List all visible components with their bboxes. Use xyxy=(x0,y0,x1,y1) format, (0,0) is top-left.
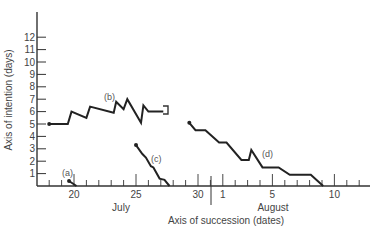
series-start-dot xyxy=(67,179,71,183)
y-tick-label: 6 xyxy=(29,106,35,117)
y-axis-title: Axis of intention (days) xyxy=(3,49,14,150)
series-lines xyxy=(47,99,323,186)
x-tick-label: 20 xyxy=(68,189,80,200)
y-tick-label: 4 xyxy=(29,131,35,142)
series-start-dot xyxy=(187,121,191,125)
series-start-dot xyxy=(134,143,138,147)
series-label-b: (b) xyxy=(104,92,115,102)
y-tick-label: 1 xyxy=(29,168,35,179)
x-tick-label: 5 xyxy=(270,189,276,200)
series-label-c: (c) xyxy=(151,154,162,164)
x-tick-label: 30 xyxy=(192,189,204,200)
y-tick-label: 12 xyxy=(24,32,36,43)
series-label-a: (a) xyxy=(62,168,73,178)
series-line-c xyxy=(136,145,170,186)
x-ticks: 2025301510 xyxy=(49,174,359,200)
series-label-d: (d) xyxy=(262,149,273,159)
chart-canvas: 123456789101112 2025301510 Axis of inten… xyxy=(0,0,375,231)
series-start-dot xyxy=(47,122,51,126)
y-tick-label: 8 xyxy=(29,81,35,92)
x-axis-title: Axis of succession (dates) xyxy=(168,215,284,226)
x-tick-label: 10 xyxy=(329,189,341,200)
y-tick-label: 2 xyxy=(29,156,35,167)
y-ticks: 123456789101112 xyxy=(24,32,46,179)
month-label-july: July xyxy=(112,202,130,213)
series-b-end-bracket xyxy=(163,106,168,114)
series-line-b xyxy=(49,99,163,124)
y-tick-label: 7 xyxy=(29,94,35,105)
y-tick-label: 9 xyxy=(29,69,35,80)
y-tick-label: 3 xyxy=(29,143,35,154)
month-label-august: August xyxy=(257,202,288,213)
series-line-d xyxy=(189,123,323,186)
y-tick-label: 10 xyxy=(24,57,36,68)
y-tick-label: 5 xyxy=(29,119,35,130)
y-tick-label: 11 xyxy=(25,44,36,55)
x-tick-label: 1 xyxy=(220,189,226,200)
x-tick-label: 25 xyxy=(130,189,142,200)
